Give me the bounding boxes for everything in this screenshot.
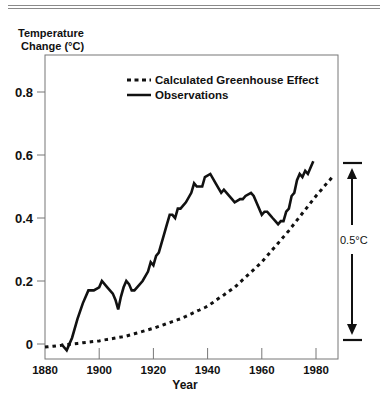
chart-canvas: 00.20.40.60.8 188019001920194019601980 Y… <box>0 0 383 405</box>
x-axis-ticks: 188019001920194019601980 <box>32 348 329 376</box>
y-tick-label: 0.2 <box>15 274 33 289</box>
y-tick-label: 0.4 <box>15 211 34 226</box>
x-tick-label: 1920 <box>141 364 167 376</box>
bracket-annotation: 0.5°C <box>340 163 368 340</box>
x-tick-label: 1960 <box>249 364 275 376</box>
y-tick-label: 0 <box>26 337 33 352</box>
x-tick-label: 1940 <box>195 364 221 376</box>
bracket-label: 0.5°C <box>340 234 368 246</box>
y-tick-label: 0.8 <box>15 85 33 100</box>
x-tick-label: 1880 <box>32 364 58 376</box>
observations-line <box>61 161 313 350</box>
x-axis-label: Year <box>172 378 198 392</box>
arrow-down-icon <box>347 324 357 335</box>
x-tick-label: 1980 <box>303 364 329 376</box>
y-tick-label: 0.6 <box>15 148 33 163</box>
arrow-up-icon <box>347 168 357 179</box>
legend: Calculated Greenhouse Effect Observation… <box>127 74 319 101</box>
legend-calculated-label: Calculated Greenhouse Effect <box>155 74 319 86</box>
x-tick-label: 1900 <box>86 364 112 376</box>
legend-observations-label: Observations <box>155 89 229 101</box>
y-axis-ticks: 00.20.40.60.8 <box>15 85 45 352</box>
